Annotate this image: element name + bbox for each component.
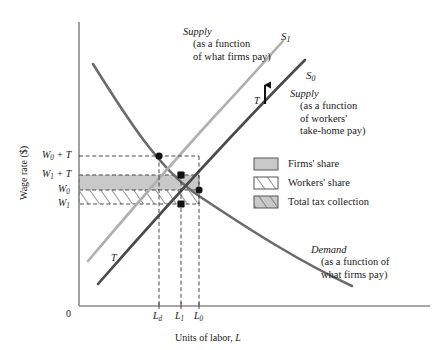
y-axis-title: Wage rate ($)	[18, 146, 30, 200]
s1-annotation: Supply (as a function of what firms pay)	[183, 26, 271, 63]
s0-annotation-line-2: of workers'	[290, 113, 366, 125]
s1-annotation-head: Supply	[183, 26, 271, 38]
s1-curve-label: S1	[281, 30, 290, 44]
s0-curve-label: S0	[306, 69, 315, 83]
y-tick-w0-sub: 0	[66, 188, 70, 196]
s1-annotation-line-2: of what firms pay)	[183, 51, 271, 63]
s0-annotation: Supply (as a function of workers' take-h…	[290, 88, 366, 138]
demand-annotation-head: Demand	[311, 244, 390, 256]
s0-curve	[98, 60, 305, 284]
demand-annotation-line-2: what firms pay)	[311, 269, 390, 281]
y-tick-w0-plus-t-suffix: + T	[54, 149, 71, 160]
s0-annotation-head: Supply	[290, 88, 366, 100]
origin-label: 0	[66, 308, 71, 320]
y-tick-w1-plus-t-suffix: + T	[54, 168, 71, 179]
y-tick-w0: W0	[58, 183, 70, 196]
s1-curve-label-sub: 1	[287, 35, 291, 44]
x-axis-title: Units of labor, L	[175, 332, 241, 344]
x-tick-l0: L0	[194, 310, 203, 323]
demand-annotation-line-1: (as a function of	[311, 256, 390, 268]
demand-annotation: Demand (as a function of what firms pay)	[311, 244, 390, 281]
s0-curve-label-sub: 0	[312, 74, 316, 83]
legend-label-firms-share: Firms' share	[288, 158, 339, 170]
legend-swatch-firms-share	[254, 158, 278, 170]
legend-swatch-total-tax	[254, 196, 278, 208]
tax-shift-label-lower: T	[111, 252, 117, 264]
y-tick-w1-sub: 1	[66, 202, 70, 210]
s0-annotation-line-1: (as a function	[290, 100, 366, 112]
y-tick-w1: W1	[58, 197, 70, 210]
x-tick-l1: L1	[175, 310, 184, 323]
x-axis-title-plain: Units of labor,	[175, 332, 235, 343]
y-tick-w1-plus-t: W1 + T	[42, 168, 71, 181]
legend-label-workers-share: Workers' share	[288, 177, 350, 189]
s1-annotation-line-1: (as a function	[183, 38, 271, 50]
s1-curve	[88, 41, 283, 261]
legend-label-total-tax: Total tax collection	[288, 196, 369, 208]
y-tick-w0-plus-t: W0 + T	[42, 149, 71, 162]
x-tick-l0-sub: 0	[200, 315, 204, 323]
tax-incidence-figure: Wage rate ($) Units of labor, L 0 W0 + T…	[0, 0, 443, 350]
s0-annotation-line-3: take-home pay)	[290, 125, 366, 137]
x-tick-ld-sub: d	[159, 315, 163, 323]
legend-swatch-workers-share	[254, 177, 278, 189]
legend-swatches	[254, 158, 278, 208]
x-tick-ld: Ld	[153, 310, 162, 323]
x-tick-l1-sub: 1	[181, 315, 185, 323]
x-axis-title-symbol: L	[235, 332, 241, 343]
tax-shift-label-upper: T	[254, 95, 260, 107]
